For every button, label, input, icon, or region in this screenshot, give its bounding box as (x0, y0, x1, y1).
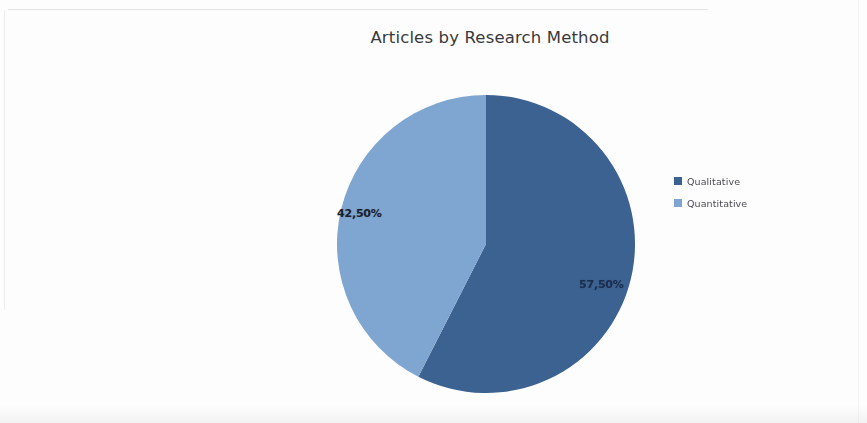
scan-artifact-right-edge (858, 0, 859, 423)
chart-legend: Qualitative Quantitative (674, 170, 794, 214)
legend-swatch-icon-qualitative (674, 177, 682, 185)
pie-chart-svg (336, 94, 636, 394)
legend-item-qualitative[interactable]: Qualitative (674, 170, 794, 192)
legend-label-qualitative: Qualitative (687, 176, 740, 187)
pie-chart: 42,50% 57,50% (336, 94, 636, 394)
legend-item-quantitative[interactable]: Quantitative (674, 192, 794, 214)
chart-title: Articles by Research Method (0, 28, 867, 47)
pie-label-quantitative: 42,50% (337, 207, 382, 220)
scan-artifact-bottom-shade (0, 406, 867, 423)
legend-swatch-icon-quantitative (674, 199, 682, 207)
legend-label-quantitative: Quantitative (687, 198, 747, 209)
scan-artifact-left-edge (4, 10, 5, 310)
pie-label-qualitative: 57,50% (579, 278, 624, 291)
scan-artifact-top-line (8, 9, 708, 10)
